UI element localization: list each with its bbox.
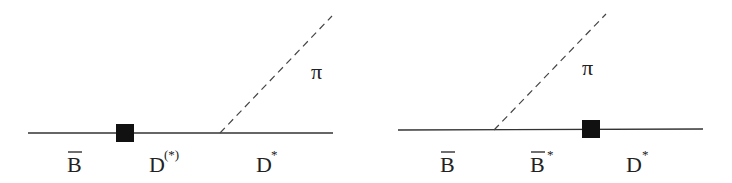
label-outgoing-dstar: D * (256, 147, 278, 177)
label-incoming-bbar: B (67, 152, 82, 177)
diagram-left: π B D (*) D * (28, 16, 333, 177)
svg-text:D: D (149, 152, 165, 177)
pion-label: π (311, 59, 322, 84)
svg-text:D: D (626, 152, 642, 177)
weak-vertex-square (116, 124, 134, 142)
label-incoming-bbar: B (440, 152, 455, 177)
svg-text:*: * (642, 147, 649, 162)
svg-text:B: B (440, 152, 455, 177)
diagram-right: π B B * D * (398, 14, 703, 177)
svg-text:D: D (256, 152, 272, 177)
feynman-diagrams: π B D (*) D * π B B * D * (0, 0, 732, 183)
svg-text:*: * (547, 147, 554, 162)
label-outgoing-dstar: D * (626, 147, 649, 177)
svg-text:(*): (*) (164, 147, 179, 162)
svg-text:B: B (530, 152, 545, 177)
pion-label: π (582, 55, 593, 80)
weak-vertex-square (582, 120, 600, 138)
svg-text:*: * (271, 147, 278, 162)
meson-line (398, 129, 703, 130)
label-intermediate-dstar-paren: D (*) (149, 147, 179, 177)
label-intermediate-bbar-star: B * (530, 147, 554, 177)
svg-text:B: B (67, 152, 82, 177)
